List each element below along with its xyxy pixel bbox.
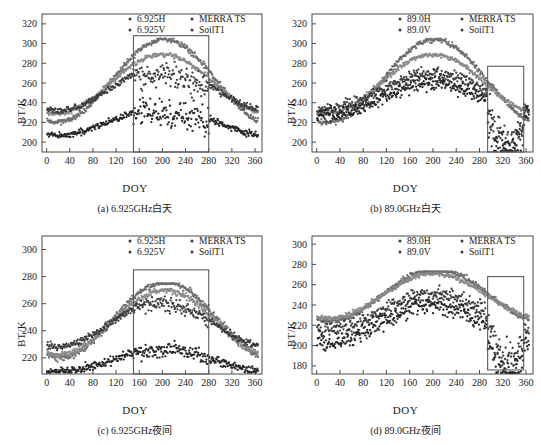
legend-label: MERRA TS bbox=[469, 236, 516, 246]
panel-d: 1802002202402602803000408012016020024028… bbox=[270, 222, 541, 445]
x-tick-label: 280 bbox=[472, 155, 487, 166]
x-axis-title-a: DOY bbox=[0, 182, 270, 194]
y-axis-title-d: BT/K bbox=[285, 321, 297, 347]
x-tick-label: 280 bbox=[201, 155, 216, 166]
x-tick-label: 320 bbox=[224, 377, 239, 388]
x-tick-label: 200 bbox=[155, 155, 170, 166]
y-tick-label: 200 bbox=[292, 137, 307, 148]
x-tick-label: 240 bbox=[449, 155, 464, 166]
legend-label: 6.925V bbox=[137, 247, 165, 257]
x-tick-label: 280 bbox=[201, 377, 216, 388]
x-axis-title-c: DOY bbox=[0, 404, 270, 416]
x-tick-label: 0 bbox=[314, 377, 319, 388]
y-tick-label: 260 bbox=[22, 78, 37, 89]
panel-b: 2002202402602803003200408012016020024028… bbox=[270, 0, 541, 222]
x-tick-label: 120 bbox=[379, 377, 394, 388]
series-6-925h bbox=[46, 97, 259, 139]
x-tick-label: 360 bbox=[519, 155, 534, 166]
y-axis-title-a: BT/K bbox=[15, 98, 27, 124]
panel-a: 2002202402602803003200408012016020024028… bbox=[0, 0, 270, 222]
panel-caption-c: (c) 6.925GHz夜间 bbox=[0, 422, 270, 437]
y-tick-label: 180 bbox=[292, 360, 307, 371]
x-tick-label: 160 bbox=[402, 155, 417, 166]
x-tick-label: 120 bbox=[109, 155, 124, 166]
panel-caption-d: (d) 89.0GHz夜间 bbox=[270, 422, 541, 437]
legend-label: MERRA TS bbox=[469, 14, 516, 24]
x-tick-label: 320 bbox=[495, 377, 510, 388]
y-tick-label: 280 bbox=[22, 271, 37, 282]
x-tick-label: 40 bbox=[65, 155, 75, 166]
x-axis-title-d: DOY bbox=[270, 404, 541, 416]
legend-label: 6.925H bbox=[137, 236, 165, 246]
legend: 6.925HMERRA TS6.925VSoilT1 bbox=[129, 14, 246, 35]
series-6-925v bbox=[46, 61, 259, 115]
y-tick-label: 280 bbox=[292, 58, 307, 69]
x-tick-label: 40 bbox=[335, 155, 345, 166]
x-tick-label: 200 bbox=[155, 377, 170, 388]
legend-label: 6.925V bbox=[137, 25, 165, 35]
x-tick-label: 200 bbox=[425, 155, 440, 166]
legend-label: SoilT1 bbox=[199, 247, 225, 257]
legend-label: MERRA TS bbox=[199, 236, 246, 246]
legend: 6.925HMERRA TS6.925VSoilT1 bbox=[129, 236, 246, 257]
legend-label: 89.0H bbox=[407, 236, 431, 246]
x-tick-label: 0 bbox=[314, 155, 319, 166]
legend-label: MERRA TS bbox=[199, 14, 246, 24]
y-tick-label: 280 bbox=[292, 259, 307, 270]
x-tick-label: 240 bbox=[449, 377, 464, 388]
y-tick-label: 300 bbox=[292, 239, 307, 250]
legend-label: SoilT1 bbox=[469, 247, 495, 257]
x-tick-label: 360 bbox=[248, 377, 263, 388]
x-tick-label: 320 bbox=[495, 155, 510, 166]
x-tick-label: 120 bbox=[109, 377, 124, 388]
data-points bbox=[46, 38, 259, 139]
legend-label: SoilT1 bbox=[199, 25, 225, 35]
x-tick-label: 280 bbox=[472, 377, 487, 388]
x-tick-label: 80 bbox=[358, 155, 368, 166]
x-tick-label: 240 bbox=[178, 377, 193, 388]
x-tick-label: 360 bbox=[519, 377, 534, 388]
y-tick-label: 320 bbox=[292, 18, 307, 29]
x-tick-label: 160 bbox=[132, 155, 147, 166]
y-axis-title-b: BT/K bbox=[285, 98, 297, 124]
x-tick-label: 200 bbox=[425, 377, 440, 388]
legend-label: 89.0V bbox=[407, 247, 431, 257]
x-tick-label: 0 bbox=[44, 155, 49, 166]
data-points bbox=[46, 282, 259, 374]
x-tick-label: 80 bbox=[88, 155, 98, 166]
y-tick-label: 300 bbox=[22, 38, 37, 49]
y-tick-label: 260 bbox=[292, 279, 307, 290]
series-89-0h bbox=[316, 297, 530, 374]
legend-label: 89.0V bbox=[407, 25, 431, 35]
x-tick-label: 80 bbox=[88, 377, 98, 388]
x-tick-label: 40 bbox=[335, 377, 345, 388]
y-axis-title-c: BT/K bbox=[15, 321, 27, 347]
y-tick-label: 300 bbox=[292, 38, 307, 49]
x-tick-label: 0 bbox=[44, 377, 49, 388]
figure-grid: 2002202402602803003200408012016020024028… bbox=[0, 0, 541, 445]
y-tick-label: 260 bbox=[292, 78, 307, 89]
y-tick-label: 260 bbox=[22, 298, 37, 309]
x-tick-label: 160 bbox=[132, 377, 147, 388]
x-tick-label: 160 bbox=[402, 377, 417, 388]
x-tick-label: 360 bbox=[248, 155, 263, 166]
highlight-box bbox=[133, 270, 208, 374]
series-6-925v bbox=[46, 295, 259, 351]
data-points bbox=[316, 38, 530, 153]
x-tick-label: 40 bbox=[65, 377, 75, 388]
y-tick-label: 200 bbox=[22, 137, 37, 148]
y-tick-label: 280 bbox=[22, 58, 37, 69]
legend-label: 6.925H bbox=[137, 14, 165, 24]
x-tick-label: 80 bbox=[358, 377, 368, 388]
y-tick-label: 220 bbox=[22, 352, 37, 363]
x-tick-label: 120 bbox=[379, 155, 394, 166]
y-tick-label: 240 bbox=[292, 300, 307, 311]
legend: 89.0HMERRA TS89.0VSoilT1 bbox=[399, 14, 516, 35]
panel-caption-b: (b) 89.0GHz白天 bbox=[270, 200, 541, 215]
x-tick-label: 320 bbox=[224, 155, 239, 166]
data-points bbox=[316, 270, 530, 374]
legend-label: 89.0H bbox=[407, 14, 431, 24]
legend-label: SoilT1 bbox=[469, 25, 495, 35]
panel-c: 2202402602803000408012016020024028032036… bbox=[0, 222, 270, 445]
y-tick-label: 300 bbox=[22, 244, 37, 255]
